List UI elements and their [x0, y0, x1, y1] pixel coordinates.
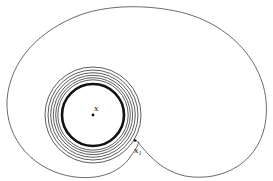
start-label-subscript: 1: [139, 150, 142, 156]
equilibrium-point: [92, 114, 95, 117]
phase-portrait-diagram: x x1: [0, 0, 273, 181]
start-label: x1: [134, 146, 142, 156]
start-point-x1: [134, 139, 137, 142]
center-label: x: [94, 104, 99, 113]
